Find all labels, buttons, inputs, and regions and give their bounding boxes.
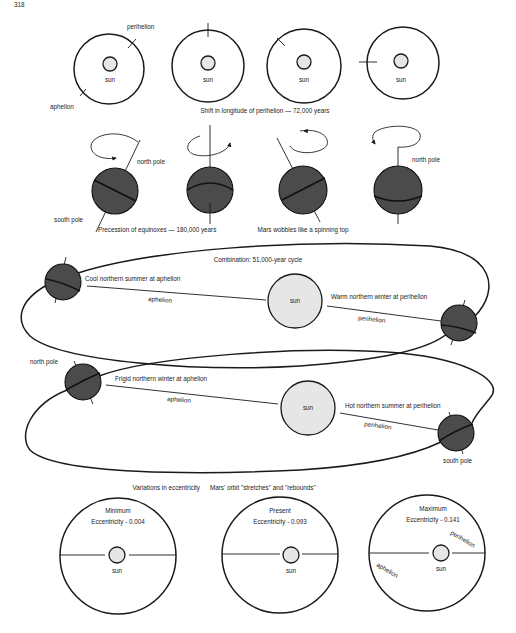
precession-panel: north pole south pole Mars wobbles like …	[54, 125, 441, 234]
north-pole-label: north pole	[412, 156, 441, 164]
planet-aphelion-top	[45, 257, 81, 303]
planet-sphere	[45, 264, 81, 300]
sun-label: sun	[299, 76, 310, 83]
perihelion-label: perihelion	[358, 314, 386, 325]
sun-label: sun	[112, 567, 123, 574]
orbit-diagram-1: sun perihelion aphelion	[50, 23, 155, 111]
aphelion-line	[87, 286, 266, 300]
sun-icon	[433, 545, 449, 561]
sun-icon	[201, 56, 215, 70]
planet-perihelion-bottom	[438, 412, 474, 454]
aphelion-line	[106, 385, 278, 404]
sun-label: sun	[203, 76, 214, 83]
planet-sphere	[374, 166, 422, 214]
page-number: 318	[14, 1, 25, 8]
planet-sphere	[441, 305, 477, 341]
eccentricity-value: Eccentricity - 0.141	[406, 516, 460, 524]
spinning-planet-4: north pole	[373, 126, 441, 224]
orbit-circle	[222, 497, 338, 613]
combination-title: Combination: 51,000-year cycle	[214, 256, 303, 264]
spinning-planet-3: Mars wobbles like a spinning top	[257, 130, 349, 234]
eccentricity-maximum: sun Maximum Eccentricity - 0.141 perihel…	[369, 495, 485, 611]
sun-icon	[109, 547, 125, 563]
frigid-winter-note: Frigid northern winter at aphelion	[115, 375, 208, 383]
orbit-diagram-2: sun	[172, 23, 244, 102]
sun-label: sun	[436, 565, 447, 572]
sun-label: sun	[286, 567, 297, 574]
south-pole-label: south pole	[54, 216, 84, 224]
eccentricity-value: Eccentricity - 0.004	[91, 518, 145, 526]
rotation-arrow-icon	[188, 136, 230, 156]
eccentricity-caption: Variations in eccentricity	[133, 484, 201, 492]
aphelion-label: aphelion	[148, 295, 173, 305]
wobble-caption: Mars wobbles like a spinning top	[257, 226, 349, 234]
perihelion-label: perihelion	[127, 23, 155, 31]
orbit-diagram-3: sun	[267, 29, 341, 103]
spinning-planet-2	[187, 125, 233, 224]
eccentricity-panel: Variations in eccentricity Mars' orbit "…	[60, 484, 485, 614]
south-pole-label: south pole	[443, 457, 473, 465]
planet-sphere	[438, 415, 474, 451]
eccentricity-title: Present	[269, 507, 291, 514]
sun-icon	[297, 55, 311, 69]
planet-sphere	[65, 364, 101, 400]
rotation-path	[290, 130, 327, 152]
eccentricity-title: Maximum	[419, 505, 446, 512]
sun-label: sun	[303, 404, 314, 411]
aphelion-label: aphelion	[167, 395, 192, 405]
precession-caption: Precession of equinoxes — 180,000 years	[98, 226, 216, 234]
bottom-orbit-group: sun aphelion perihelion Frigid northern …	[30, 358, 474, 465]
sun-icon	[394, 54, 408, 68]
perihelion-shift-caption: Shift in longitude of perihelion — 72,00…	[201, 107, 330, 115]
perihelion-marker	[277, 38, 285, 46]
sun-icon	[103, 57, 117, 71]
sun-label: sun	[105, 76, 116, 83]
mars-orbital-cycles-diagram: 318 sun perihelion aphelion sun sun	[0, 0, 516, 633]
aphelion-label: aphelion	[375, 561, 400, 580]
north-pole-label: north pole	[30, 358, 59, 366]
top-orbit-group: sun aphelion perihelion Cool northern su…	[45, 257, 477, 345]
stretch-rebound-caption: Mars' orbit "stretches" and "rebounds"	[210, 484, 316, 491]
perihelion-shift-panel: sun perihelion aphelion sun sun sun Shi	[50, 23, 439, 115]
eccentricity-minimum: sun Minimum Eccentricity - 0.004	[60, 498, 176, 614]
sun-label: sun	[290, 297, 301, 304]
combination-panel: Combination: 51,000-year cycle sun aphel…	[21, 244, 493, 473]
hot-summer-note: Hot northern summer at perihelion	[345, 402, 441, 410]
eccentricity-value: Eccentricity - 0.093	[253, 518, 307, 526]
sun-icon	[283, 547, 299, 563]
cool-summer-note: Cool northern summer at aphelion	[85, 275, 181, 283]
north-pole-label: north pole	[137, 158, 166, 166]
planet-aphelion-bottom	[65, 361, 101, 404]
aphelion-label: aphelion	[50, 103, 74, 111]
eccentricity-present: sun Present Eccentricity - 0.093	[222, 497, 338, 613]
planet-perihelion-top	[441, 300, 477, 345]
perihelion-label: perihelion	[449, 529, 477, 550]
warm-winter-note: Warm northern winter at perihelion	[331, 293, 428, 301]
eccentricity-title: Minimum	[105, 507, 131, 514]
rotation-arrow-icon	[373, 126, 421, 147]
rotation-arrow-icon	[91, 134, 138, 159]
orbit-diagram-4: sun	[359, 27, 439, 99]
spinning-planet-1: north pole south pole	[54, 134, 166, 232]
sun-label: sun	[396, 76, 407, 83]
